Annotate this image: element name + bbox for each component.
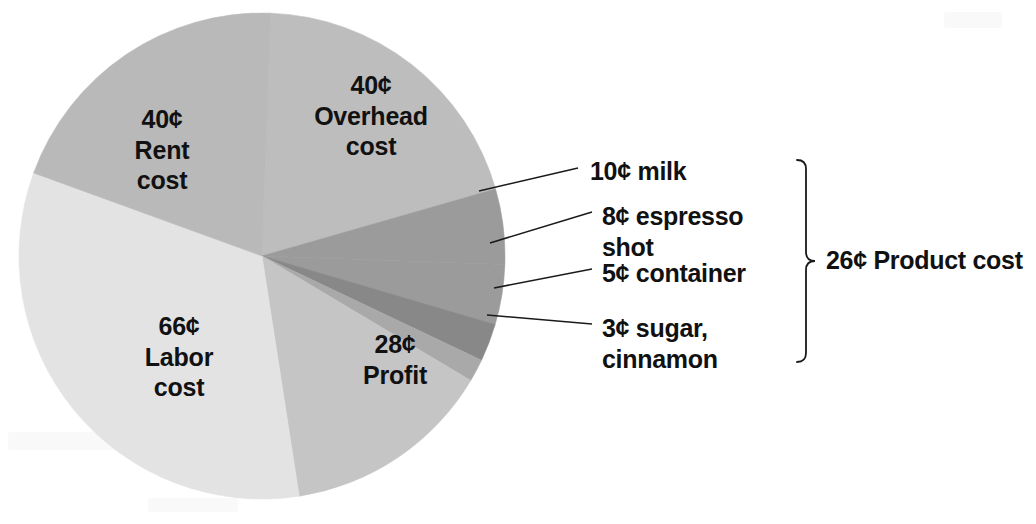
leader-line-espresso (490, 212, 592, 243)
callout-label-milk: 10¢ milk (590, 156, 686, 187)
leader-line-container (494, 269, 592, 288)
product-cost-bracket (797, 160, 815, 362)
callout-label-container: 5¢ container (602, 258, 746, 289)
pie-slice-label-rent: 40¢ Rent cost (92, 104, 232, 196)
pie-slice-label-labor: 66¢ Labor cost (104, 311, 254, 403)
pie-slice-label-profit: 28¢ Profit (340, 329, 450, 390)
leader-line-sugar (487, 315, 592, 324)
group-total-label: 26¢ Product cost (826, 246, 1023, 275)
pie-slice-label-overhead: 40¢ Overhead cost (276, 70, 466, 162)
leader-line-milk (479, 168, 578, 191)
pie-chart-figure: 40¢ Overhead cost40¢ Rent cost66¢ Labor … (0, 0, 1036, 524)
bracket-group (797, 160, 815, 362)
callout-label-espresso: 8¢ espresso shot (602, 201, 743, 262)
callout-label-sugar: 3¢ sugar, cinnamon (602, 313, 718, 374)
